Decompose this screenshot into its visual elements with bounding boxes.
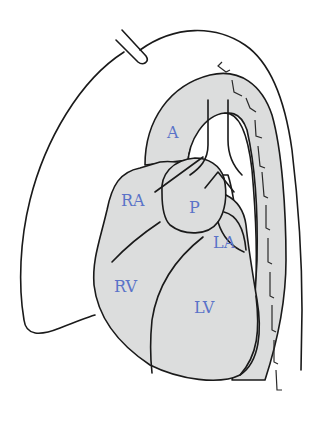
pulmonary-artery xyxy=(162,158,226,233)
tube-icon xyxy=(116,30,147,64)
label-left-ventricle: LV xyxy=(194,298,215,317)
label-left-atrium: LA xyxy=(213,233,236,252)
heart-diagram: A RA P LA RV LV xyxy=(0,0,333,421)
label-right-atrium: RA xyxy=(121,191,145,210)
label-pulmonary: P xyxy=(189,198,200,217)
label-aorta: A xyxy=(166,123,179,142)
label-right-ventricle: RV xyxy=(114,277,137,296)
